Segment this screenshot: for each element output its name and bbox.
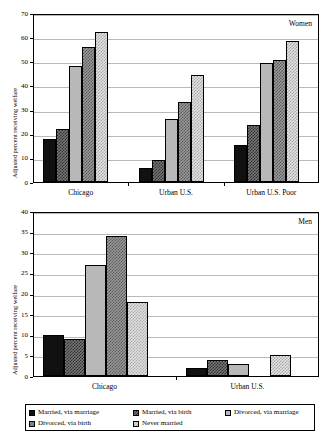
y-tick-mark <box>30 183 33 184</box>
legend-label: Divorced, via birth <box>38 420 91 427</box>
legend-label: Married, via marriage <box>38 409 99 416</box>
bar <box>286 41 299 182</box>
bar <box>270 355 291 376</box>
bar <box>165 119 178 182</box>
y-tick-label: 30 <box>11 250 28 257</box>
y-tick-label: 35 <box>11 229 28 236</box>
y-tick-label: 5 <box>11 353 28 360</box>
bar <box>69 66 82 182</box>
bars-men <box>34 213 318 376</box>
x-axis-category-label: Urban U.S. Poor <box>226 188 316 197</box>
x-axis-tick <box>224 183 225 186</box>
bar <box>152 160 165 182</box>
y-tick-label: 0 <box>11 374 28 381</box>
y-tick-label: 0 <box>11 180 28 187</box>
y-tick-label: 30 <box>11 107 28 114</box>
legend-item-never-married[interactable]: Never married <box>133 420 225 427</box>
bar <box>139 168 152 182</box>
y-axis-label-men: Adjusted percent receiving welfare <box>11 285 18 375</box>
legend-label: Never married <box>142 420 183 427</box>
legend-item-married-via-marriage[interactable]: Married, via marriage <box>29 409 133 416</box>
legend-swatch-icon <box>29 410 35 416</box>
legend-swatch-icon <box>29 421 35 427</box>
y-tick-label: 10 <box>11 155 28 162</box>
bar <box>43 139 56 182</box>
y-tick-label: 10 <box>11 332 28 339</box>
y-tick-label: 25 <box>11 270 28 277</box>
bar <box>273 60 286 182</box>
legend-row: Married, via marriage Married, via birth… <box>29 407 311 418</box>
legend-swatch-icon <box>133 410 139 416</box>
y-tick-label: 60 <box>11 35 28 42</box>
bar <box>56 129 69 182</box>
x-axis-category-label: Urban U.S. <box>131 188 221 197</box>
bar <box>186 368 207 376</box>
plot-area-men: Men <box>33 212 319 377</box>
legend-item-divorced-via-birth[interactable]: Divorced, via birth <box>29 420 133 427</box>
bar <box>191 75 204 182</box>
legend-swatch-icon <box>225 410 231 416</box>
y-tick-label: 70 <box>11 11 28 18</box>
y-tick-label: 20 <box>11 131 28 138</box>
y-tick-label: 15 <box>11 312 28 319</box>
y-tick-label: 40 <box>11 209 28 216</box>
legend-label: Divorced, via marriage <box>234 409 299 416</box>
legend-row: Divorced, via birth Never married <box>29 418 311 429</box>
bars-women <box>34 15 318 182</box>
panel-annotation-men: Men <box>298 217 312 226</box>
legend-label: Married, via birth <box>142 409 192 416</box>
bar <box>82 47 95 182</box>
plot-area-women: Women <box>33 14 319 183</box>
legend: Married, via marriage Married, via birth… <box>25 404 315 431</box>
bar <box>95 32 108 182</box>
legend-swatch-icon <box>133 421 139 427</box>
legend-item-divorced-via-marriage[interactable]: Divorced, via marriage <box>225 409 299 416</box>
bar <box>178 102 191 182</box>
bar <box>127 302 148 376</box>
panel-annotation-women: Women <box>289 19 312 28</box>
bar <box>207 360 228 377</box>
x-axis-tick <box>176 377 177 380</box>
x-axis-tick <box>128 183 129 186</box>
y-tick-label: 20 <box>11 291 28 298</box>
y-tick-label: 40 <box>11 83 28 90</box>
bar <box>228 364 249 376</box>
bar <box>106 236 127 376</box>
bar <box>247 125 260 182</box>
bar <box>64 339 85 376</box>
legend-item-married-via-birth[interactable]: Married, via birth <box>133 409 225 416</box>
y-tick-mark <box>30 377 33 378</box>
bar <box>85 265 106 376</box>
x-axis-category-label: Chicago <box>60 382 150 391</box>
y-tick-label: 50 <box>11 59 28 66</box>
x-axis-category-label: Urban U.S. <box>203 382 293 391</box>
x-axis-category-label: Chicago <box>36 188 126 197</box>
bar <box>234 145 247 182</box>
bar <box>43 335 64 376</box>
bar <box>260 63 273 183</box>
